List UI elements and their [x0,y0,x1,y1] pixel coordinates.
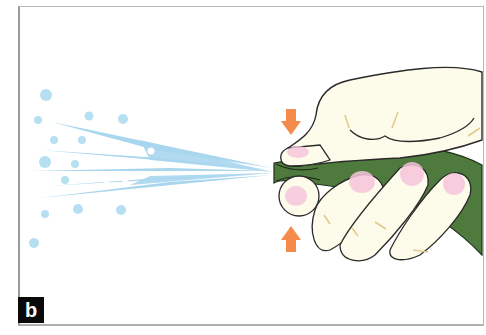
index-nail [285,186,307,206]
arrow-down-icon [281,109,301,135]
hose-spray-illustration [0,0,486,335]
water-spray [30,122,272,198]
panel-label: b [18,297,44,323]
water-droplets [29,89,128,248]
thumb-nail [287,146,309,158]
arrow-up-icon [281,226,301,252]
